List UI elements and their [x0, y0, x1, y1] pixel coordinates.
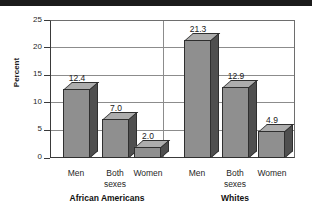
bar-value-label-2-0: 2.0 [131, 132, 165, 141]
bar-value-label-12-9: 12.9 [219, 72, 253, 81]
bar-value-label-4-9: 4.9 [255, 116, 289, 125]
gridline-20 [51, 47, 294, 48]
y-tick-label-0: 0 [22, 153, 42, 161]
bar-african-americans-women [134, 147, 161, 158]
category-label-whites-women: Women [249, 168, 295, 178]
bar-side-face [90, 82, 98, 158]
bar-side-face [211, 33, 219, 158]
bar-african-americans-both-sexes [102, 119, 129, 158]
y-axis-tick-labels: 25 20 15 10 5 0 [20, 0, 42, 211]
category-label-african-americans-women: Women [125, 168, 171, 178]
top-black-banner [0, 0, 312, 6]
bar-african-americans-men [63, 89, 90, 158]
y-tick-label-25: 25 [22, 16, 42, 24]
bar-whites-men [184, 40, 211, 158]
group-label-african-americans: African Americans [42, 193, 172, 203]
bar-front-face [102, 119, 129, 158]
y-axis-title: Percent [12, 48, 21, 98]
bar-front-face [134, 147, 161, 158]
bar-front-face [258, 131, 285, 158]
bar-value-label-12-4: 12.4 [60, 74, 94, 83]
chart-figure: 25 20 15 10 5 0 Percent 12.4 7.0 [0, 0, 312, 211]
y-tick-label-5: 5 [22, 125, 42, 133]
bar-value-label-21-3: 21.3 [181, 25, 215, 34]
y-tick-mark-0 [44, 158, 50, 159]
category-label-african-americans-men: Men [54, 168, 98, 178]
bar-whites-women [258, 131, 285, 158]
y-tick-label-20: 20 [22, 43, 42, 51]
bar-front-face [63, 89, 90, 158]
y-tick-label-10: 10 [22, 98, 42, 106]
bar-front-face [222, 87, 249, 158]
category-label-african-americans-sexes: sexes [93, 179, 137, 189]
category-label-whites-sexes: sexes [213, 179, 257, 189]
group-label-whites: Whites [170, 193, 300, 203]
bar-value-label-7-0: 7.0 [99, 104, 133, 113]
y-tick-label-15: 15 [22, 70, 42, 78]
bar-whites-both-sexes [222, 87, 249, 158]
bar-front-face [184, 40, 211, 158]
